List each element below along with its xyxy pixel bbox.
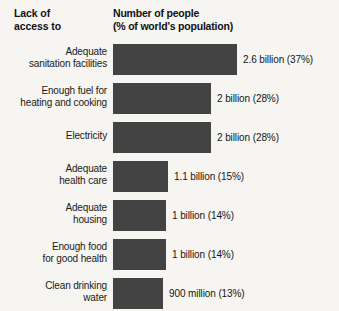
header-left-line-2: access to <box>14 20 106 33</box>
chart-row: Enough fuel for heating and cooking 2 bi… <box>0 79 339 117</box>
category-label-line: Adequate <box>12 46 107 58</box>
bar-container <box>113 157 168 195</box>
chart-row: Enough food for good health 1 billion (1… <box>0 235 339 273</box>
category-label: Clean drinking water <box>12 280 107 303</box>
chart-row: Adequate health care 1.1 billion (15%) <box>0 157 339 195</box>
bar-container <box>113 274 163 311</box>
category-label-line: Enough food <box>12 241 107 253</box>
bar <box>113 122 211 153</box>
bar <box>113 278 163 309</box>
chart-row: Clean drinking water 900 million (13%) <box>0 274 339 311</box>
bar-container <box>113 196 166 234</box>
bar <box>113 200 166 231</box>
chart-row: Electricity 2 billion (28%) <box>0 118 339 156</box>
category-label: Adequate health care <box>12 163 107 186</box>
category-label-line: heating and cooking <box>12 97 107 109</box>
bar <box>113 44 237 75</box>
bar-container <box>113 79 211 117</box>
chart-rows: Adequate sanitation facilities 2.6 billi… <box>0 40 339 311</box>
category-label: Adequate housing <box>12 202 107 225</box>
bar <box>113 161 168 192</box>
chart-row-header-label: Lack of access to <box>14 7 106 33</box>
category-label-line: Adequate <box>12 202 107 214</box>
category-label-line: housing <box>12 214 107 226</box>
category-label: Electricity <box>12 130 107 142</box>
category-label-line: for good health <box>12 253 107 265</box>
category-label-line: Adequate <box>12 163 107 175</box>
category-label: Enough food for good health <box>12 241 107 264</box>
value-label: 1 billion (14%) <box>172 235 234 273</box>
category-label-line: water <box>12 292 107 304</box>
bar-container <box>113 118 211 156</box>
category-label-line: sanitation facilities <box>12 58 107 70</box>
value-label: 900 million (13%) <box>169 274 245 311</box>
category-label: Enough fuel for heating and cooking <box>12 85 107 108</box>
header-left-line-1: Lack of <box>14 7 106 20</box>
chart-row: Adequate housing 1 billion (14%) <box>0 196 339 234</box>
category-label: Adequate sanitation facilities <box>12 46 107 69</box>
category-label-line: health care <box>12 175 107 187</box>
header-right-line-1: Number of people <box>113 7 328 20</box>
value-label: 1.1 billion (15%) <box>174 157 244 195</box>
bar <box>113 83 211 114</box>
bar-container <box>113 40 237 78</box>
chart-value-header-label: Number of people (% of world's populatio… <box>113 7 328 33</box>
value-label: 1 billion (14%) <box>172 196 234 234</box>
bar-chart: Lack of access to Number of people (% of… <box>0 0 339 311</box>
value-label: 2 billion (28%) <box>217 79 279 117</box>
bar <box>113 239 166 270</box>
category-label-line: Enough fuel for <box>12 85 107 97</box>
value-label: 2 billion (28%) <box>217 118 279 156</box>
category-label-line: Clean drinking <box>12 280 107 292</box>
category-label-line: Electricity <box>12 130 107 142</box>
chart-row: Adequate sanitation facilities 2.6 billi… <box>0 40 339 78</box>
header-right-line-2: (% of world's population) <box>113 20 328 33</box>
value-label: 2.6 billion (37%) <box>243 40 313 78</box>
bar-container <box>113 235 166 273</box>
